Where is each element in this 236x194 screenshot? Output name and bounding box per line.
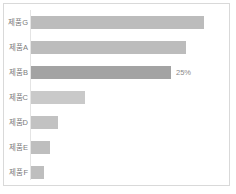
- bar-6[interactable]: [31, 166, 44, 179]
- bar-row[interactable]: 제품G: [4, 10, 231, 35]
- bar-2[interactable]: [31, 66, 171, 79]
- bar-row[interactable]: 제품D: [4, 110, 231, 135]
- bar-label-4: 제품D: [0, 110, 28, 135]
- bar-label-2: 제품B: [0, 60, 28, 85]
- chart-frame: 제품G 제품A 제품B 25% 제품C 제품D: [3, 3, 230, 186]
- bar-1[interactable]: [31, 41, 186, 54]
- bar-label-6: 제품F: [0, 160, 28, 185]
- bar-row[interactable]: 제품A: [4, 35, 231, 60]
- bar-label-3: 제품C: [0, 85, 28, 110]
- bar-label-1: 제품A: [0, 35, 28, 60]
- bar-5[interactable]: [31, 141, 50, 154]
- bar-0[interactable]: [31, 16, 204, 29]
- bar-label-5: 제품E: [0, 135, 28, 160]
- bar-row[interactable]: 제품E: [4, 135, 231, 160]
- bar-row[interactable]: 제품F: [4, 160, 231, 185]
- bar-value-2: 25%: [176, 60, 191, 85]
- bar-row[interactable]: 제품B 25%: [4, 60, 231, 85]
- bar-row[interactable]: 제품C: [4, 85, 231, 110]
- plot-area: 제품G 제품A 제품B 25% 제품C 제품D: [4, 4, 231, 187]
- bar-3[interactable]: [31, 91, 85, 104]
- bar-4[interactable]: [31, 116, 58, 129]
- chart-screenshot: 제품G 제품A 제품B 25% 제품C 제품D: [0, 0, 236, 194]
- bar-label-0: 제품G: [0, 10, 28, 35]
